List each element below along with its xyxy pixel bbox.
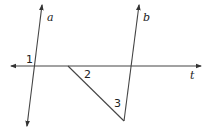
line-b (124, 5, 139, 121)
label-a: a (47, 11, 54, 24)
geometry-figure: a b t 1 2 3 (0, 0, 215, 140)
diagram: a b t 1 2 3 (0, 0, 215, 140)
label-t: t (190, 69, 195, 82)
angle-label-3: 3 (114, 97, 121, 110)
angle-label-1: 1 (26, 53, 33, 66)
label-b: b (143, 11, 150, 24)
segment-triangle-side (68, 66, 124, 121)
angle-label-2: 2 (84, 68, 91, 81)
